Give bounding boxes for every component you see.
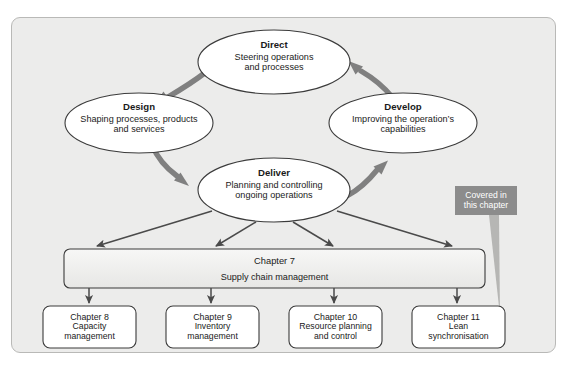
chapter-boxes (43, 306, 505, 348)
arrow-develop-to-direct (349, 61, 393, 97)
arrow-deliver-to-bar-3 (293, 222, 333, 246)
box-chapter-10[interactable] (289, 306, 382, 348)
chapter7-to-boxes-arrows (89, 288, 457, 303)
arrow-deliver-to-bar-1 (97, 211, 212, 246)
arrow-deliver-to-bar-2 (216, 222, 256, 246)
ellipse-develop[interactable] (329, 93, 477, 153)
box-chapter-11[interactable] (412, 306, 505, 348)
ellipse-shapes (65, 30, 477, 222)
ellipse-deliver[interactable] (198, 158, 350, 222)
bar-chapter-7[interactable] (64, 249, 485, 288)
callout-pointer (489, 215, 500, 316)
diagram-canvas (0, 0, 570, 369)
ellipse-design[interactable] (65, 93, 213, 153)
box-chapter-9[interactable] (166, 306, 259, 348)
callout-box (455, 186, 517, 215)
diagram-figure: Direct Steering operations and processes… (0, 0, 570, 369)
ellipse-direct[interactable] (198, 30, 350, 94)
arrow-deliver-to-bar-4 (337, 211, 452, 246)
box-chapter-8[interactable] (43, 306, 136, 348)
arrow-deliver-to-develop (347, 161, 388, 197)
